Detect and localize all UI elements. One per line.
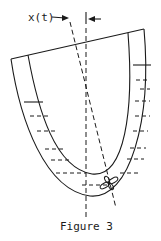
vessel-top-edge	[11, 29, 144, 59]
figure-caption: Figure 3	[60, 220, 113, 233]
fluid-level-dashes	[30, 80, 150, 185]
figure-3-diagram: x(t)	[0, 0, 161, 241]
vessel-inner-wall	[28, 33, 130, 174]
right-arrow-icon	[88, 16, 101, 22]
left-arrow-icon	[52, 15, 69, 21]
displacement-label: x(t)	[28, 11, 55, 24]
